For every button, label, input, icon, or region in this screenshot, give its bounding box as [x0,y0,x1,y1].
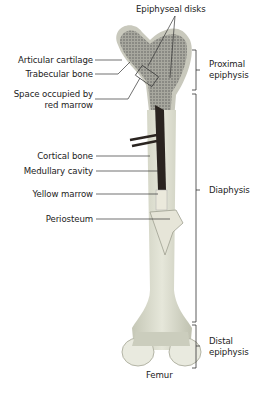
label-space-red-marrow: Space occupied by red marrow [14,89,93,110]
caption-femur: Femur [146,370,173,381]
label-space-red-marrow-line1: Space occupied by [14,89,93,100]
label-trabecular-bone: Trabecular bone [25,69,93,80]
brackets [192,50,200,368]
yellow-marrow-fill [156,190,167,210]
label-periosteum: Periosteum [46,214,93,225]
label-proximal-line2: epiphysis [209,70,249,81]
label-cortical-bone: Cortical bone [37,151,93,162]
label-articular-cartilage: Articular cartilage [18,55,93,66]
label-space-red-marrow-line2: red marrow [14,100,93,111]
label-distal-line2: epiphysis [209,347,249,358]
label-distal-line1: Distal [209,336,249,347]
top-label-epiphyseal-disks: Epiphyseal disks [136,4,206,15]
label-proximal-line1: Proximal [209,59,249,70]
label-medullary-cavity: Medullary cavity [24,166,93,177]
label-distal-epiphysis: Distal epiphysis [209,336,249,357]
label-proximal-epiphysis: Proximal epiphysis [209,59,249,80]
label-yellow-marrow: Yellow marrow [32,189,93,200]
proximal-femur [116,25,192,120]
label-diaphysis: Diaphysis [209,185,250,196]
